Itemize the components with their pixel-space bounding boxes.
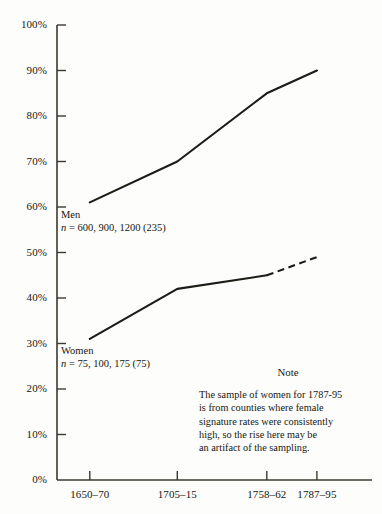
y-tick-label-90: 90% <box>3 64 47 76</box>
series-line-women-dashed <box>267 257 317 275</box>
y-tick-label-60: 60% <box>3 200 47 212</box>
y-tick-label-40: 40% <box>3 291 47 303</box>
y-tick-label-50: 50% <box>3 246 47 258</box>
series-label-men: Men <box>61 208 166 221</box>
x-tick-label-1705-15: 1705–15 <box>137 488 217 500</box>
note-line-1: The sample of women for 1787-95 <box>199 388 377 401</box>
note-line-2: is from counties where female <box>199 401 377 414</box>
note-line-3: signature rates were consistently <box>199 415 377 428</box>
y-tick-label-70: 70% <box>3 155 47 167</box>
series-annotation-men: Men n = 600, 900, 1200 (235) <box>61 208 166 234</box>
y-tick-label-80: 80% <box>3 109 47 121</box>
series-label-women: Women <box>61 344 150 357</box>
series-line-women-solid <box>90 275 267 339</box>
series-line-men <box>90 71 317 203</box>
note-annotation: Note The sample of women for 1787-95 is … <box>199 366 377 454</box>
y-tick-label-100: 100% <box>3 18 47 30</box>
series-n-women: n = 75, 100, 175 (75) <box>61 357 150 370</box>
y-tick-label-30: 30% <box>3 337 47 349</box>
line-chart: 100% 90% 80% 70% 60% 50% 40% 30% 20% 10%… <box>0 0 382 514</box>
y-tick-label-20: 20% <box>3 382 47 394</box>
x-tick-label-1787-95: 1787–95 <box>277 488 357 500</box>
y-tick-label-0: 0% <box>3 473 47 485</box>
x-tick-label-1650-70: 1650–70 <box>50 488 130 500</box>
series-annotation-women: Women n = 75, 100, 175 (75) <box>61 344 150 370</box>
x-axis-ticks <box>90 471 317 480</box>
series-n-values-women: = 75, 100, 175 (75) <box>66 358 150 369</box>
note-line-4: high, so the rise here may be <box>199 428 377 441</box>
series-n-values-men: = 600, 900, 1200 (235) <box>66 222 166 233</box>
note-title: Note <box>199 366 377 379</box>
series-n-men: n = 600, 900, 1200 (235) <box>61 221 166 234</box>
y-tick-label-10: 10% <box>3 428 47 440</box>
note-body: The sample of women for 1787-95 is from … <box>199 388 377 454</box>
note-line-5: an artifact of the sampling. <box>199 441 377 454</box>
